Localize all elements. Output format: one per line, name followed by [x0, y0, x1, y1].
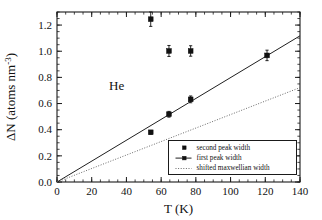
- legend-label: shifted maxwellian width: [197, 164, 270, 172]
- data-point: [148, 130, 153, 135]
- legend-marker-square: [183, 156, 187, 160]
- data-point: [265, 53, 270, 58]
- y-tick-label: 0.2: [38, 150, 52, 162]
- figure-container: 0204060801001201400.00.20.40.60.81.01.2T…: [0, 0, 322, 220]
- data-point: [188, 49, 193, 54]
- series-1: [148, 50, 269, 135]
- x-tick-label: 100: [222, 185, 239, 197]
- data-point: [167, 49, 172, 54]
- y-axis-title: ΔN (atoms nm-3): [3, 53, 18, 141]
- y-tick-label: 1.0: [38, 45, 52, 57]
- data-point: [167, 112, 172, 117]
- data-point: [148, 17, 153, 22]
- y-tick-label: 0.6: [38, 97, 52, 109]
- x-tick-label: 60: [156, 185, 168, 197]
- legend-label: first peak width: [197, 154, 243, 162]
- x-tick-label: 40: [121, 185, 133, 197]
- x-tick-label: 80: [190, 185, 202, 197]
- y-tick-label: 0.8: [38, 71, 52, 83]
- x-tick-label: 20: [86, 185, 98, 197]
- data-point: [188, 97, 193, 102]
- y-tick-label: 0.4: [38, 123, 52, 135]
- series-0: [148, 12, 193, 56]
- x-axis-title: T (K): [164, 201, 193, 216]
- x-tick-label: 0: [54, 185, 60, 197]
- y-axis-title-main: ΔN (atoms nm: [3, 65, 18, 141]
- legend-label: second peak width: [197, 144, 251, 152]
- y-tick-label: 1.2: [38, 19, 52, 31]
- annotation-he: He: [109, 78, 124, 93]
- x-tick-label: 120: [257, 185, 274, 197]
- y-tick-label: 0.0: [38, 176, 52, 188]
- legend-marker-square: [183, 146, 187, 150]
- y-axis-title-close: ): [3, 53, 18, 57]
- scatter-plot: 0204060801001201400.00.20.40.60.81.01.2T…: [0, 0, 322, 220]
- x-tick-label: 140: [292, 185, 309, 197]
